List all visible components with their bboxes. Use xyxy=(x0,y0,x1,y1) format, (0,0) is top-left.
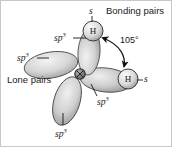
bond-angle-label: 105° xyxy=(120,36,139,45)
hydrogen-label-right: H xyxy=(122,75,134,84)
s-orbital-label-right: s xyxy=(144,75,148,85)
oxygen-nucleus xyxy=(75,69,85,79)
sp3-label-right: sp3 xyxy=(97,96,109,108)
lone-pairs-label: Lone pairs xyxy=(7,75,51,85)
sp3-exponent: 3 xyxy=(62,31,65,38)
bonding-pairs-label: Bonding pairs xyxy=(106,6,164,16)
sp3-label-bottom: sp3 xyxy=(55,128,67,140)
hydrogen-label-top: H xyxy=(87,27,99,36)
sp3-label-left: sp3 xyxy=(17,52,29,64)
sp3-exponent: 3 xyxy=(25,51,28,58)
sp3-label-top: sp3 xyxy=(54,32,66,44)
sp3-exponent: 3 xyxy=(63,127,66,134)
s-orbital-label-top: s xyxy=(89,7,93,17)
orbital-diagram-figure: H H Bonding pairs Lone pairs 105° s s sp… xyxy=(0,0,172,147)
sp3-exponent: 3 xyxy=(105,95,108,102)
